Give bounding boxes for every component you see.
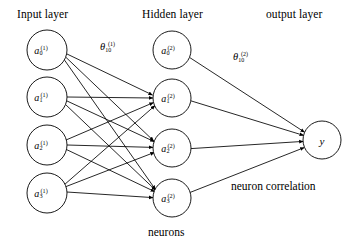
node-superscript: (1) <box>40 139 47 146</box>
input-layer-nodes <box>27 30 67 213</box>
node-label-input-2: a2(1) <box>34 140 47 152</box>
node-label-input-3: a3(1) <box>34 188 47 200</box>
edge-input1-hidden1 <box>67 97 153 98</box>
edge-input0-hidden1 <box>67 54 153 95</box>
edges-hidden-to-output <box>190 58 305 193</box>
theta-superscript: (2) <box>241 51 248 57</box>
edge-input2-hidden1 <box>66 103 153 140</box>
edge-input3-hidden3 <box>67 192 153 198</box>
node-label-hidden-1: a1(2) <box>161 93 174 105</box>
node-label-hidden-2: a2(2) <box>161 143 174 155</box>
neurons-caption: neurons <box>148 226 184 238</box>
node-superscript: (2) <box>167 44 174 51</box>
node-superscript: (1) <box>40 91 47 98</box>
neural-network-diagram: Input layer Hidden layer output layer a0… <box>0 0 358 250</box>
edge-hidden0-output <box>190 58 305 133</box>
theta-subscript: 10 <box>238 57 244 63</box>
network-graph-canvas <box>0 0 358 250</box>
theta-superscript: (1) <box>108 41 115 47</box>
edge-input2-hidden3 <box>66 149 154 191</box>
edge-hidden2-output <box>191 141 303 148</box>
node-superscript: (2) <box>167 142 174 149</box>
hidden-layer-title: Hidden layer <box>142 8 203 20</box>
edge-input0-hidden2 <box>66 57 154 141</box>
node-superscript: (1) <box>40 44 47 51</box>
node-superscript: (2) <box>167 192 174 199</box>
node-superscript: (1) <box>40 187 47 194</box>
node-label-output-y: y <box>320 135 325 147</box>
input-layer-title: Input layer <box>17 8 68 20</box>
node-superscript: (2) <box>167 92 174 99</box>
weight-label-theta-1: θ10(1) <box>100 41 115 53</box>
node-label-hidden-3: a3(2) <box>161 193 174 205</box>
node-label-hidden-0: a0(2) <box>161 45 174 57</box>
edges-input-to-hidden <box>64 54 156 198</box>
node-label-input-0: a0(1) <box>34 45 47 57</box>
edge-hidden1-output <box>191 101 304 136</box>
neuron-correlation-caption: neuron correlation <box>231 180 316 192</box>
weight-label-theta-2: θ10(2) <box>233 51 248 63</box>
node-label-input-1: a1(1) <box>34 92 47 104</box>
theta-subscript: 10 <box>105 47 111 53</box>
hidden-layer-nodes <box>153 31 191 217</box>
output-layer-title: output layer <box>266 8 322 20</box>
